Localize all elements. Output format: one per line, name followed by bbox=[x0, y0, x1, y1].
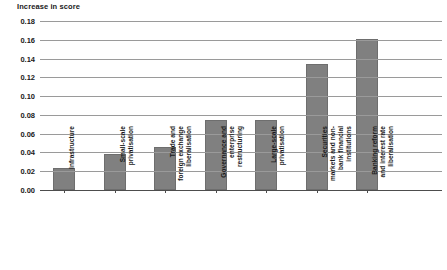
x-axis-category-label: Infrastructure bbox=[68, 126, 76, 196]
y-axis-tick-label: 0.04 bbox=[0, 148, 40, 157]
x-axis-category-label: Banking reform and interest rate liberal… bbox=[371, 126, 395, 196]
x-axis-tick bbox=[64, 190, 65, 193]
gridline bbox=[40, 77, 442, 78]
y-axis-tick-label: 0.02 bbox=[0, 167, 40, 176]
chart-axis-title: Increase in score bbox=[17, 2, 80, 11]
y-axis-tick-label: 0.14 bbox=[0, 55, 40, 64]
gridline bbox=[40, 59, 442, 60]
gridline bbox=[40, 96, 442, 97]
x-axis-tick bbox=[165, 190, 166, 193]
x-axis-tick bbox=[216, 190, 217, 193]
x-axis-category-label: Governance and enterprise restructuring bbox=[220, 126, 244, 196]
y-axis-tick-label: 0.06 bbox=[0, 130, 40, 139]
x-axis-category-label: Large-scale privatisation bbox=[270, 126, 286, 196]
x-axis-tick bbox=[266, 190, 267, 193]
y-axis-tick-label: 0.10 bbox=[0, 92, 40, 101]
gridline bbox=[40, 21, 442, 22]
y-axis-tick-label: 0.00 bbox=[0, 186, 40, 195]
gridline bbox=[40, 40, 442, 41]
x-axis-tick bbox=[317, 190, 318, 193]
x-axis-category-label: Securities markets and non- bank financi… bbox=[321, 126, 353, 196]
gridline bbox=[40, 115, 442, 116]
y-axis-tick-label: 0.16 bbox=[0, 36, 40, 45]
y-axis-tick-label: 0.18 bbox=[0, 17, 40, 26]
x-axis-tick bbox=[115, 190, 116, 193]
x-axis-category-label: Trade and foreign exchange liberalisatio… bbox=[169, 126, 193, 196]
y-axis-tick-label: 0.12 bbox=[0, 73, 40, 82]
y-axis-tick-label: 0.08 bbox=[0, 111, 40, 120]
x-axis-tick bbox=[367, 190, 368, 193]
x-axis-category-label: Small-scale privatisation bbox=[119, 126, 135, 196]
bar-chart: Increase in score 0.000.020.040.060.080.… bbox=[0, 0, 447, 270]
